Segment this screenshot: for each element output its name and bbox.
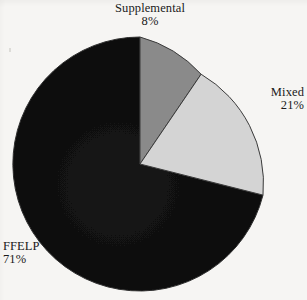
pie-label-supplemental-value: 8%	[115, 15, 185, 28]
pie-label-mixed: Mixed 21%	[271, 86, 304, 112]
pie-chart-canvas	[0, 0, 307, 300]
pie-label-supplemental-name: Supplemental	[115, 1, 185, 15]
pie-label-ffelp-name: FFELP	[3, 239, 40, 253]
pie-label-mixed-value: 21%	[271, 99, 304, 112]
pie-label-mixed-name: Mixed	[271, 85, 304, 99]
pie-chart-figure: Supplemental 8% Mixed 21% FFELP 71%	[0, 0, 307, 300]
pie-label-ffelp: FFELP 71%	[3, 240, 40, 266]
pie-label-supplemental: Supplemental 8%	[115, 2, 185, 28]
pie-label-ffelp-value: 71%	[3, 253, 40, 266]
